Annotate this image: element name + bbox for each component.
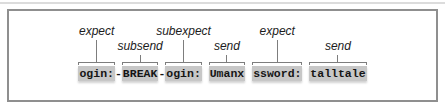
script-separator bbox=[302, 67, 309, 81]
token-wrap: BREAK bbox=[122, 62, 159, 81]
annotated-token: subexpectogin: bbox=[165, 24, 202, 81]
script-token: ogin: bbox=[78, 66, 115, 81]
annotated-token: sendtalltale bbox=[309, 39, 366, 81]
role-label: expect bbox=[260, 24, 295, 38]
role-label: subsend bbox=[117, 39, 162, 53]
token-wrap: ogin: bbox=[165, 62, 202, 81]
role-label: send bbox=[214, 39, 240, 53]
connector-line bbox=[277, 40, 278, 62]
token-bracket bbox=[165, 62, 202, 65]
annotated-token: subsendBREAK bbox=[122, 39, 159, 81]
annotated-token: sendUmanx bbox=[209, 39, 246, 81]
token-bracket bbox=[252, 62, 302, 65]
token-bracket bbox=[309, 62, 366, 65]
script-token: BREAK bbox=[122, 66, 159, 81]
script-separator: - bbox=[115, 67, 122, 81]
script-token: Umanx bbox=[209, 66, 246, 81]
connector-line bbox=[337, 55, 338, 62]
connector-line bbox=[226, 55, 227, 62]
role-label: send bbox=[325, 39, 351, 53]
connector-line bbox=[140, 55, 141, 62]
script-token: talltale bbox=[309, 66, 366, 81]
token-wrap: ssword: bbox=[252, 62, 302, 81]
script-separator bbox=[245, 67, 252, 81]
script-token: ssword: bbox=[252, 66, 302, 81]
role-label: expect bbox=[79, 24, 114, 38]
token-bracket bbox=[122, 62, 159, 65]
scan-artifact-line bbox=[0, 2, 445, 4]
token-wrap: ogin: bbox=[78, 62, 115, 81]
token-wrap: Umanx bbox=[209, 62, 246, 81]
connector-line bbox=[96, 40, 97, 62]
script-separator: - bbox=[158, 67, 165, 81]
chat-script-diagram: expectogin:-subsendBREAK-subexpectogin: … bbox=[9, 11, 436, 100]
connector-line bbox=[183, 40, 184, 62]
script-separator bbox=[202, 67, 209, 81]
annotated-token: expectssword: bbox=[252, 24, 302, 81]
annotated-token: expectogin: bbox=[78, 24, 115, 81]
token-wrap: talltale bbox=[309, 62, 366, 81]
role-label: subexpect bbox=[156, 24, 211, 38]
token-bracket bbox=[78, 62, 115, 65]
figure-frame: expectogin:-subsendBREAK-subexpectogin: … bbox=[7, 9, 438, 102]
token-bracket bbox=[209, 62, 246, 65]
script-token: ogin: bbox=[165, 66, 202, 81]
